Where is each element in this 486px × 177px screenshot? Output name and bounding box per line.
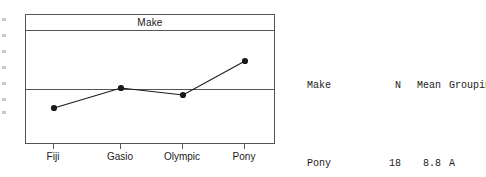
grouping-table: MakeNMeanGrouping Pony188.8A Gasio187.8 … [283, 27, 486, 177]
x-tick-label-fiji: Fiji [47, 150, 60, 164]
cell-n: 18 [371, 157, 401, 170]
x-tick-label-gasio: Gasio [107, 150, 133, 164]
plot-frame: Make [25, 14, 275, 144]
interval-plot-panel: Make Fiji Gasio Olympic Pony [0, 0, 280, 177]
table-row: Pony188.8A [283, 144, 486, 177]
data-point-fiji [51, 105, 57, 111]
column-header-n: N [371, 79, 401, 92]
mean-series-line [26, 31, 276, 144]
plot-area [26, 31, 274, 144]
cell-make: Pony [307, 157, 371, 170]
column-header-make: Make [307, 79, 371, 92]
x-axis-labels: Fiji Gasio Olympic Pony [25, 150, 275, 166]
data-point-olympic [180, 92, 186, 98]
x-tick-label-olympic: Olympic [164, 150, 200, 164]
cell-mean: 8.8 [401, 157, 441, 170]
page-title: Make [137, 18, 162, 28]
table-header-row: MakeNMeanGrouping [283, 66, 486, 105]
column-header-mean: Mean [401, 79, 441, 92]
x-tick-label-pony: Pony [233, 150, 256, 164]
series-polyline [54, 61, 245, 108]
column-header-grouping: Grouping [441, 79, 486, 92]
cell-grouping: A [441, 157, 455, 170]
chart-title-bar: Make [26, 15, 274, 31]
data-point-gasio [118, 85, 124, 91]
y-axis-ghost-ticks [2, 18, 10, 114]
data-point-pony [242, 58, 248, 64]
